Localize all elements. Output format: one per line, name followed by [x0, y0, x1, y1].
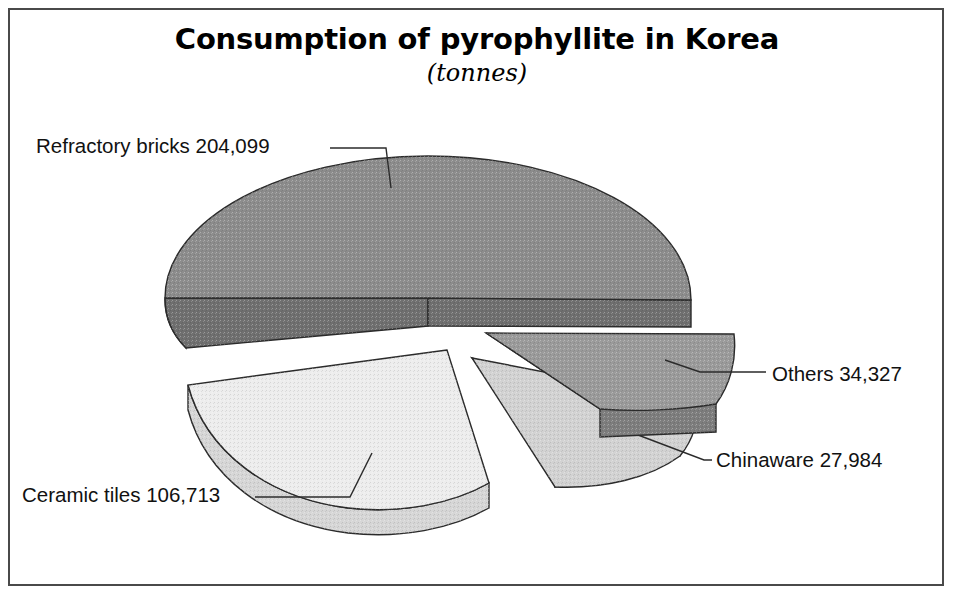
slice-label-refractory-bricks: Refractory bricks 204,099 [36, 134, 270, 158]
pie-slice-ceramic-tiles[interactable] [188, 350, 489, 535]
chart-page: Consumption of pyrophyllite in Korea (to… [0, 0, 954, 600]
slice-label-others: Others 34,327 [772, 362, 902, 386]
ceramic-top-texture [188, 350, 489, 510]
pie-slice-refractory-bricks[interactable] [165, 148, 691, 348]
slice-label-ceramic-tiles: Ceramic tiles 106,713 [22, 483, 220, 507]
refractory-side-left-texture [165, 298, 428, 348]
pie-chart-graphic [0, 0, 954, 600]
refractory-top-texture [165, 156, 691, 300]
refractory-side-right-texture [428, 298, 691, 327]
slice-label-chinaware: Chinaware 27,984 [716, 448, 882, 472]
